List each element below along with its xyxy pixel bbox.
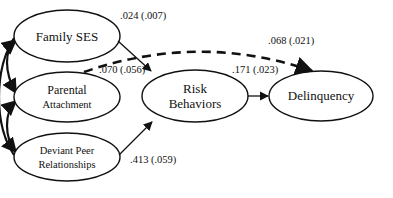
path-diagram: Family SES Parental Attachment Deviant P…	[0, 0, 393, 198]
node-parental-attachment: Parental Attachment	[14, 72, 120, 122]
coef-ses-risk: .024 (.007)	[120, 10, 167, 22]
node-delinquency: Delinquency	[269, 71, 373, 121]
node-label: Behaviors	[169, 96, 222, 111]
coef-dashed-path: .070 (.056)	[99, 64, 146, 76]
node-label: Parental	[47, 83, 87, 97]
node-label: Attachment	[43, 99, 92, 110]
coef-peer-risk: .413 (.059)	[130, 154, 177, 166]
node-label: Family SES	[36, 29, 99, 44]
node-family-ses: Family SES	[14, 10, 120, 62]
node-label: Deviant Peer	[40, 145, 95, 156]
node-label: Delinquency	[288, 88, 355, 103]
coef-parental-delinquency: .068 (.021)	[268, 35, 315, 47]
node-deviant-peer: Deviant Peer Relationships	[14, 133, 120, 181]
arrow-peer-to-risk	[119, 122, 152, 155]
node-label: Risk	[183, 81, 207, 96]
coef-risk-delinquency: .171 (.023)	[232, 64, 279, 76]
node-label: Relationships	[38, 159, 95, 170]
node-risk-behaviors: Risk Behaviors	[142, 70, 248, 122]
